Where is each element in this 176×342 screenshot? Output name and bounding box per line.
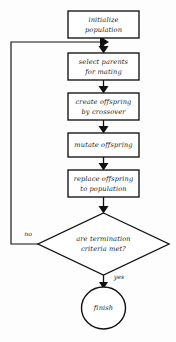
initialize-population-label-line1: initialize [88,16,118,24]
mutate-offspring-label-line1: mutate offspring [74,141,132,149]
create-offspring-label-line2: by crossover [81,108,126,116]
replace-offspring-label-line1: replace offspring [74,175,134,183]
edge-label-yes: yes [113,273,124,281]
edge-label-no: no [24,230,32,237]
termination-decision-label-line2: criteria met? [81,245,126,253]
node-replace-offspring: replace offspring to population [68,170,139,197]
node-mutate-offspring: mutate offspring [68,133,139,157]
node-initialize-population: initialize population [68,11,139,38]
node-finish: finish [82,287,126,329]
node-select-parents: select parents for mating [68,53,139,80]
connector-mutate-to-replace [99,157,109,171]
create-offspring-label-line1: create offspring [76,98,132,106]
select-parents-label-line2: for mating [84,68,122,76]
connector-crossover-to-mutate [99,120,109,134]
node-create-offspring: create offspring by crossover [68,93,139,120]
flowchart-diagram: initialize population select parents for… [0,0,176,342]
connector-select-to-crossover [99,80,109,94]
select-parents-label-line1: select parents [79,58,129,66]
flowchart-canvas: initialize population select parents for… [0,0,176,342]
termination-decision-label-line1: are termination [76,235,131,243]
initialize-population-label-line2: population [85,26,122,34]
finish-label: finish [93,304,113,312]
node-termination-decision: are termination criteria met? [38,213,169,275]
replace-offspring-label-line2: to population [80,185,126,193]
connector-replace-to-decision [99,197,109,214]
termination-decision-diamond [38,213,169,275]
